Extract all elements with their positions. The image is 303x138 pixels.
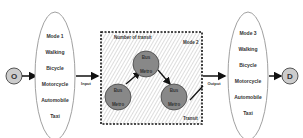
destination-label: D [287, 72, 293, 81]
svg-text:Metro: Metro [168, 102, 181, 107]
svg-text:Bus: Bus [114, 88, 123, 93]
mode2-title: Mode 2 [183, 40, 199, 45]
svg-text:Metro: Metro [140, 69, 153, 74]
mode1-item: Automobile [41, 97, 69, 103]
svg-text:Bus: Bus [170, 88, 179, 93]
origin-node: O [6, 68, 22, 84]
mode1-item: Motorcycle [42, 81, 69, 87]
svg-text:Metro: Metro [112, 102, 125, 107]
transit-node: Bus Metro [105, 84, 131, 110]
transit-node: Bus Metro [161, 84, 187, 110]
mode1-item: Bicycle [46, 65, 64, 71]
transit-label: Transit [183, 116, 198, 121]
mode3-ellipse: Mode 3 Walking Bicycle Motorcycle Automo… [228, 12, 268, 138]
mode3-item: Walking [239, 46, 258, 52]
mode3-item: Automobile [234, 94, 262, 100]
mode1-ellipse: Mode 1 Walking Bicycle Motorcycle Automo… [35, 12, 75, 138]
mode3-item: Bicycle [239, 62, 257, 68]
multimodal-diagram: O Mode 1 Walking Bicycle Motorcycle Auto… [0, 0, 303, 138]
input-label: Input [81, 81, 91, 86]
mode3-title: Mode 3 [239, 30, 256, 36]
mode2-transit-box: Number of transit Mode 2 Transit Bus Met… [101, 32, 203, 124]
destination-node: D [282, 68, 298, 84]
number-of-transit-label: Number of transit [114, 35, 152, 40]
origin-label: O [11, 72, 17, 81]
transit-node: Bus Metro [133, 51, 159, 77]
output-label: Output [207, 81, 221, 86]
mode1-item: Walking [46, 49, 65, 55]
mode1-item: Taxi [50, 113, 60, 119]
mode3-item: Taxi [243, 110, 253, 116]
mode1-title: Mode 1 [46, 33, 63, 39]
mode3-item: Motorcycle [235, 78, 262, 84]
svg-text:Bus: Bus [142, 55, 151, 60]
